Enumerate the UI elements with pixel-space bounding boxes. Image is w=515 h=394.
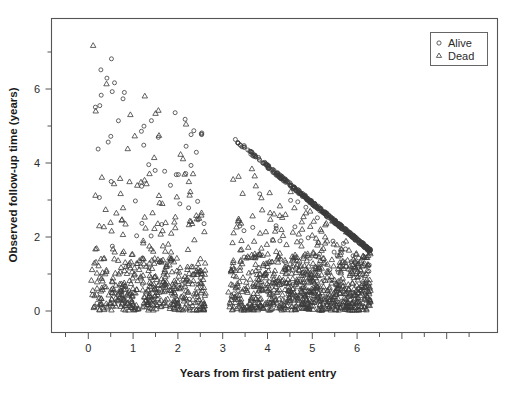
data-point-dead: [290, 229, 295, 234]
data-point-dead: [128, 112, 133, 117]
data-point-dead: [178, 152, 183, 157]
data-point-alive: [304, 205, 308, 209]
data-point-alive: [251, 225, 255, 229]
data-point-dead: [280, 233, 285, 238]
data-point-dead: [198, 256, 203, 261]
data-point-dead: [89, 267, 94, 272]
data-point-alive: [202, 222, 206, 226]
data-point-alive: [194, 150, 198, 154]
data-point-dead: [283, 212, 288, 217]
data-point-alive: [109, 134, 113, 138]
data-point-dead: [99, 175, 104, 180]
data-point-alive: [289, 198, 293, 202]
data-point-dead: [172, 219, 177, 224]
data-point-dead: [195, 261, 200, 266]
x-tick-label-1: 1: [130, 342, 136, 354]
data-point-alive: [149, 234, 153, 238]
data-point-dead: [108, 220, 113, 225]
data-point-dead: [240, 191, 245, 196]
data-point-dead: [147, 171, 152, 176]
data-point-dead: [112, 249, 117, 254]
x-tick-label-0: 0: [85, 342, 91, 354]
data-point-dead: [226, 289, 231, 294]
data-point-dead: [186, 179, 191, 184]
data-point-dead: [331, 263, 336, 268]
data-point-dead: [236, 174, 241, 179]
data-point-alive: [109, 57, 113, 61]
data-point-alive: [113, 81, 117, 85]
data-point-dead: [299, 219, 304, 224]
data-point-dead: [177, 265, 182, 270]
data-point-dead: [142, 214, 147, 219]
data-point-alive: [98, 104, 102, 108]
data-point-dead: [140, 287, 145, 292]
x-tick-label-3: 3: [220, 342, 226, 354]
data-point-dead: [104, 81, 109, 86]
data-point-dead: [156, 193, 161, 198]
y-tick-label-2: 2: [34, 231, 40, 243]
data-point-dead: [230, 177, 235, 182]
figure-canvas: 0 2 4 6 Observed follow-up time (years): [0, 0, 515, 394]
data-point-dead: [292, 205, 297, 210]
y-axis-ticks: [46, 52, 52, 311]
data-point-dead: [109, 278, 114, 283]
data-point-dead: [169, 230, 174, 235]
data-point-dead: [230, 240, 235, 245]
data-point-dead: [190, 171, 195, 176]
data-point-alive: [332, 250, 336, 254]
data-point-dead: [160, 243, 165, 248]
data-point-dead: [109, 228, 114, 233]
data-point-dead: [113, 270, 118, 275]
data-point-dead: [279, 227, 284, 232]
data-point-dead: [296, 231, 301, 236]
legend[interactable]: Alive Dead: [431, 33, 488, 66]
data-point-alive: [142, 124, 146, 128]
data-point-dead: [117, 176, 122, 181]
data-point-dead: [173, 225, 178, 230]
data-point-dead: [250, 213, 255, 218]
data-point-dead: [202, 229, 207, 234]
data-points-layer: [89, 43, 374, 312]
data-point-dead: [246, 245, 251, 250]
y-tick-label-4: 4: [34, 157, 40, 169]
data-point-dead: [168, 249, 173, 254]
data-point-alive: [133, 199, 137, 203]
data-point-alive: [306, 236, 310, 240]
data-point-dead: [110, 246, 115, 251]
data-point-dead: [180, 156, 185, 161]
data-point-dead: [132, 133, 137, 138]
data-point-dead: [103, 207, 108, 212]
data-point-dead: [135, 183, 140, 188]
data-point-alive: [142, 143, 146, 147]
data-point-dead: [310, 261, 315, 266]
data-point-dead: [120, 232, 125, 237]
data-point-alive: [299, 239, 303, 243]
x-axis-title: Years from first patient entry: [180, 367, 337, 379]
data-point-alive: [293, 225, 297, 229]
data-point-alive: [192, 129, 196, 133]
data-point-alive: [278, 239, 282, 243]
data-point-dead: [231, 230, 236, 235]
data-point-dead: [120, 205, 125, 210]
data-point-alive: [121, 97, 125, 101]
data-point-dead: [183, 121, 188, 126]
data-point-dead: [166, 241, 171, 246]
data-point-dead: [259, 245, 264, 250]
data-point-dead: [264, 242, 269, 247]
data-point-dead: [308, 224, 313, 229]
data-point-dead: [267, 190, 272, 195]
data-point-dead: [192, 237, 197, 242]
data-point-alive: [153, 168, 157, 172]
data-point-alive: [315, 216, 319, 220]
data-point-alive: [96, 147, 100, 151]
x-tick-label-6: 6: [354, 342, 360, 354]
data-point-dead: [253, 183, 258, 188]
data-point-dead: [268, 217, 273, 222]
data-point-alive: [258, 192, 262, 196]
data-point-dead: [130, 286, 135, 291]
data-point-alive: [196, 199, 200, 203]
data-point-alive: [99, 93, 103, 97]
data-point-dead: [128, 281, 133, 286]
scatter-plot: 0 2 4 6 Observed follow-up time (years): [0, 0, 515, 394]
data-point-alive: [110, 90, 114, 94]
